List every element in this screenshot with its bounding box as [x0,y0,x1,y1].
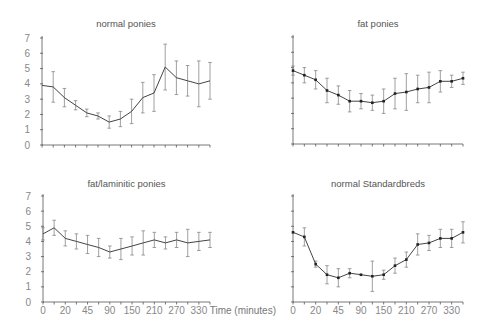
panel-title: fat/laminitic ponies [87,178,165,189]
panel-title: fat ponies [357,18,398,29]
x-tick-label: 90 [104,305,116,316]
x-tick-label: 330 [443,305,460,316]
y-tick-label: 7 [24,33,30,44]
x-tick-label: 150 [375,305,392,316]
y-tick-label: 6 [25,206,31,217]
panel-title: normal ponies [96,18,156,29]
x-tick-label: 150 [124,305,141,316]
x-axis-label: Time (minutes) [210,305,276,316]
y-tick-label: 7 [25,191,31,202]
series-line [293,71,463,103]
y-tick-label: 4 [25,236,31,247]
panel-bottom-left: fat/laminitic ponies01234567020459015021… [25,178,211,316]
y-tick-label: 5 [24,63,30,74]
y-tick-label: 6 [24,48,30,59]
y-tick-label: 3 [24,94,30,105]
x-tick-label: 0 [40,305,46,316]
x-tick-label: 0 [290,305,296,316]
x-tick-label: 20 [310,305,322,316]
panel-bottom-right: normal Standardbreds0204590150210270330 [290,178,465,316]
x-tick-label: 45 [82,305,94,316]
x-tick-label: 270 [421,305,438,316]
y-tick-label: 2 [25,266,31,277]
panel-top-left: normal ponies01234567 [24,18,211,151]
panel-top-right: fat ponies [291,18,465,147]
series-line [42,67,210,122]
x-tick-label: 330 [191,305,208,316]
chart-figure: normal ponies01234567fat poniesfat/lamin… [0,0,487,335]
y-tick-label: 0 [24,140,30,151]
series-line [293,232,463,277]
y-tick-label: 5 [25,221,31,232]
y-tick-label: 0 [25,297,31,308]
y-tick-label: 1 [24,124,30,135]
y-tick-label: 3 [25,251,31,262]
x-tick-label: 20 [60,305,72,316]
panel-title: normal Standardbreds [331,178,425,189]
x-tick-label: 90 [355,305,367,316]
y-tick-label: 1 [25,281,31,292]
x-tick-label: 210 [398,305,415,316]
x-tick-label: 270 [168,305,185,316]
y-tick-label: 2 [24,109,30,120]
x-tick-label: 45 [333,305,345,316]
y-tick-label: 4 [24,78,30,89]
series-line [43,228,210,252]
x-tick-label: 210 [146,305,163,316]
